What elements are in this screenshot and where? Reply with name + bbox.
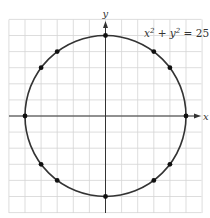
y-axis-label: y [102, 8, 109, 19]
x-axis-label: x [203, 111, 209, 122]
data-point [55, 178, 60, 183]
data-point [103, 194, 108, 199]
data-point [151, 49, 156, 54]
data-point [55, 49, 60, 54]
data-point [23, 114, 28, 119]
data-point [168, 65, 173, 70]
data-point [39, 162, 44, 167]
equation-label: x2 + y2 = 25 [144, 27, 209, 39]
data-point [168, 162, 173, 167]
circle-graph: x y x2 + y2 = 25 [0, 0, 210, 218]
axes [9, 21, 201, 213]
data-point [151, 178, 156, 183]
data-point [103, 33, 108, 38]
data-point [184, 114, 189, 119]
data-point [39, 65, 44, 70]
